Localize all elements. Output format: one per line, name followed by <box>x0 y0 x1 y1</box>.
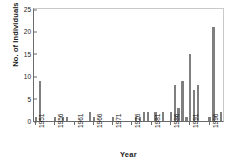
x-axis-title: Year <box>33 150 224 159</box>
x-tick-label: 1956 <box>57 114 64 128</box>
y-tick-label: 10 <box>24 73 34 80</box>
x-tick-label: 1981 <box>154 114 161 128</box>
bar <box>112 117 114 121</box>
y-axis-title: No. of Individuals <box>11 0 20 80</box>
x-tick-mark <box>131 122 132 125</box>
x-tick-label: 1986 <box>173 114 180 128</box>
bar <box>181 81 183 121</box>
x-tick-label: 1991 <box>192 114 199 128</box>
bar <box>93 117 95 121</box>
x-tick-mark <box>209 122 210 125</box>
x-tick-mark <box>112 122 113 125</box>
y-tick-label: 20 <box>24 28 34 35</box>
x-tick-label: 1951 <box>38 114 45 128</box>
x-tick-label: 1976 <box>134 114 141 128</box>
x-tick-mark <box>35 122 36 125</box>
bar <box>189 54 191 121</box>
bar <box>147 112 149 121</box>
x-tick-mark <box>93 122 94 125</box>
bar <box>212 27 214 121</box>
x-axis-ticks: 1951195619611966197119761981198619911996 <box>33 122 224 126</box>
x-tick-label: 1996 <box>212 114 219 128</box>
y-tick-label: 5 <box>27 95 34 102</box>
bar <box>208 117 210 121</box>
x-tick-mark <box>189 122 190 125</box>
bar <box>162 112 164 121</box>
x-tick-label: 1961 <box>77 114 84 128</box>
bar-series <box>34 9 223 121</box>
x-tick-mark <box>151 122 152 125</box>
bar <box>220 112 222 121</box>
plot-area: 0510152025 <box>33 8 224 122</box>
bar <box>66 117 68 121</box>
bar <box>35 117 37 121</box>
bar-chart: No. of Individuals 0510152025 1951195619… <box>0 0 233 160</box>
x-tick-mark <box>74 122 75 125</box>
bar <box>89 112 91 121</box>
x-tick-label: 1971 <box>115 114 122 128</box>
bar <box>143 112 145 121</box>
y-tick-label: 15 <box>24 50 34 57</box>
x-tick-label: 1966 <box>96 114 103 128</box>
y-tick-label: 25 <box>24 6 34 13</box>
bar <box>170 112 172 121</box>
x-tick-mark <box>54 122 55 125</box>
x-tick-mark <box>170 122 171 125</box>
bar <box>185 117 187 121</box>
